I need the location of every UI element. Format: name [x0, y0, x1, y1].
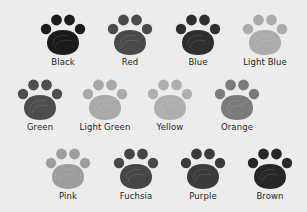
paw-swatch-pink[interactable]: Pink: [43, 146, 93, 206]
paw-print-icon: [80, 77, 130, 121]
paw-swatch-light-green[interactable]: Light Green: [80, 77, 130, 137]
paw-label: Orange: [192, 122, 282, 132]
paw-swatch-fuchsia[interactable]: Fuchsia: [111, 146, 161, 206]
paw-print-icon: [240, 12, 290, 56]
paw-print-icon: [111, 146, 161, 190]
paw-swatch-green[interactable]: Green: [15, 77, 65, 137]
paw-swatch-purple[interactable]: Purple: [178, 146, 228, 206]
paw-color-chart: { "title": "Paw color options", "rows": …: [0, 0, 307, 212]
paw-print-icon: [38, 12, 88, 56]
paw-print-icon: [173, 12, 223, 56]
paw-swatch-brown[interactable]: Brown: [245, 146, 295, 206]
paw-print-icon: [245, 146, 295, 190]
paw-print-icon: [212, 77, 262, 121]
paw-label: Brown: [225, 191, 307, 201]
paw-label: Light Blue: [220, 57, 307, 67]
paw-print-icon: [145, 77, 195, 121]
paw-print-icon: [105, 12, 155, 56]
paw-swatch-blue[interactable]: Blue: [173, 12, 223, 72]
paw-swatch-yellow[interactable]: Yellow: [145, 77, 195, 137]
paw-swatch-red[interactable]: Red: [105, 12, 155, 72]
paw-swatch-black[interactable]: Black: [38, 12, 88, 72]
paw-print-icon: [178, 146, 228, 190]
paw-swatch-light-blue[interactable]: Light Blue: [240, 12, 290, 72]
paw-swatch-orange[interactable]: Orange: [212, 77, 262, 137]
paw-print-icon: [43, 146, 93, 190]
paw-print-icon: [15, 77, 65, 121]
